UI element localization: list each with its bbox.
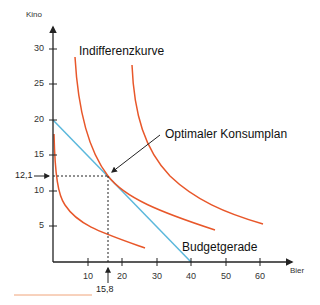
y-tick-label: 30 — [22, 43, 44, 53]
x-tick-label: 30 — [147, 271, 167, 281]
y-tick-label: 25 — [22, 78, 44, 88]
budget-line-label: Budgetgerade — [182, 240, 257, 254]
x-tick-label: 20 — [112, 271, 132, 281]
indifference-curve-3 — [132, 65, 263, 224]
y-tick-label: 5 — [22, 220, 44, 230]
x-axis-label: Bier — [290, 266, 304, 275]
y-optimum-value: 12,1 — [15, 170, 33, 180]
budget-line — [53, 120, 191, 262]
x-tick-label: 40 — [181, 271, 201, 281]
y-axis-label: Kino — [26, 10, 42, 19]
x-tick-label: 50 — [216, 271, 236, 281]
y-tick-label: 20 — [22, 114, 44, 124]
x-optimum-value: 15,8 — [96, 284, 114, 294]
y-tick-label: 10 — [22, 185, 44, 195]
indifference-curve-1 — [54, 134, 145, 248]
indifference-curve-label: Indifferenzkurve — [79, 44, 164, 58]
y-tick-label: 15 — [22, 149, 44, 159]
x-tick-label: 10 — [78, 271, 98, 281]
indifference-curve-2 — [75, 57, 215, 230]
optimum-label: Optimaler Konsumplan — [165, 127, 287, 141]
x-tick-label: 60 — [250, 271, 270, 281]
